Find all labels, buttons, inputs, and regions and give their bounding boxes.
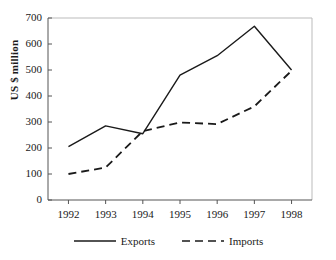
- legend-entry-exports: Exports: [73, 236, 155, 247]
- x-tick-label: 1995: [160, 209, 200, 220]
- x-tick-label: 1993: [86, 209, 126, 220]
- legend-line-dashed-icon: [181, 236, 225, 246]
- y-tick-label: 400: [12, 90, 42, 101]
- x-axis-ticks: [68, 200, 291, 204]
- x-tick-label: 1996: [197, 209, 237, 220]
- y-tick-label: 300: [12, 116, 42, 127]
- x-tick-label: 1997: [234, 209, 274, 220]
- y-axis-ticks: [48, 18, 52, 200]
- plot-frame: [48, 18, 312, 200]
- legend-label-imports: Imports: [229, 236, 263, 247]
- x-tick-label: 1998: [272, 209, 312, 220]
- y-tick-label: 700: [12, 12, 42, 23]
- legend-label-exports: Exports: [121, 236, 155, 247]
- y-tick-label: 500: [12, 64, 42, 75]
- series-line-imports: [68, 71, 291, 174]
- series-line-exports: [68, 26, 291, 146]
- legend-entry-imports: Imports: [181, 236, 263, 247]
- y-tick-label: 200: [12, 142, 42, 153]
- series-lines: [68, 26, 291, 174]
- x-tick-label: 1992: [48, 209, 88, 220]
- y-tick-label: 100: [12, 168, 42, 179]
- line-chart: US $ million 0100200300400500600700 1992…: [0, 0, 336, 260]
- legend-line-solid-icon: [73, 236, 117, 246]
- chart-legend: Exports Imports: [0, 230, 336, 252]
- plot-area: [0, 0, 336, 260]
- y-tick-label: 0: [12, 194, 42, 205]
- y-tick-label: 600: [12, 38, 42, 49]
- x-tick-label: 1994: [123, 209, 163, 220]
